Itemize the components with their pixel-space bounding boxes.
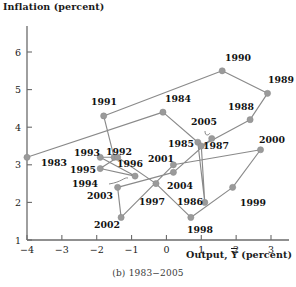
data-point-label-1985: 1985 xyxy=(168,138,194,149)
data-point-label-1993: 1993 xyxy=(74,147,100,158)
x-tick-label-0: 0 xyxy=(163,244,169,255)
data-point-label-1984: 1984 xyxy=(165,93,191,104)
y-tick-label-5: 5 xyxy=(15,84,21,95)
data-point-1999[interactable] xyxy=(230,184,236,190)
data-point-label-1987: 1987 xyxy=(203,140,229,151)
y-tick-label-4: 4 xyxy=(15,122,21,133)
x-tick-label-−1: −1 xyxy=(125,244,139,255)
data-point-label-2005: 2005 xyxy=(191,116,217,127)
data-point-1983[interactable] xyxy=(24,154,30,160)
x-axis-title-variable-letter: Y xyxy=(231,249,238,260)
y-tick-label-3: 3 xyxy=(15,159,21,170)
y-tick-labels: 123456 xyxy=(15,47,21,246)
x-tickmarks xyxy=(27,235,271,240)
data-point-label-1994: 1994 xyxy=(72,178,98,189)
data-point-2003[interactable] xyxy=(115,184,121,190)
data-point-label-2002: 2002 xyxy=(94,219,120,230)
data-point-label-1989: 1989 xyxy=(268,74,294,85)
data-point-label-2003: 2003 xyxy=(87,190,113,201)
leader-1994 xyxy=(109,178,128,184)
data-point-label-2004: 2004 xyxy=(167,180,193,191)
y-tick-label-6: 6 xyxy=(15,47,21,58)
data-point-1995[interactable] xyxy=(97,165,103,171)
data-point-label-1990: 1990 xyxy=(225,52,251,63)
x-tick-label-−3: −3 xyxy=(55,244,69,255)
x-axis-title-suffix: (percent) xyxy=(238,249,292,260)
x-axis-title: Output, Y (percent) xyxy=(186,249,292,260)
data-point-label-1997: 1997 xyxy=(139,196,165,207)
data-point-2000[interactable] xyxy=(257,147,263,153)
x-tick-label-−2: −2 xyxy=(90,244,104,255)
figure-caption: (b) 1983−2005 xyxy=(0,268,296,278)
data-point-label-1988: 1988 xyxy=(228,101,254,112)
data-point-label-2001: 2001 xyxy=(148,153,174,164)
data-point-label-1992: 1992 xyxy=(106,146,132,157)
data-point-label-1996: 1996 xyxy=(117,158,143,169)
data-point-1994[interactable] xyxy=(132,173,138,179)
leader-2005 xyxy=(205,131,210,135)
data-point-label-1998: 1998 xyxy=(187,224,213,235)
y-tick-label-2: 2 xyxy=(15,197,21,208)
scatter-plot: 123456 −4−3−2−10123 19831984198519861987… xyxy=(0,0,296,287)
data-point-1989[interactable] xyxy=(264,90,270,96)
data-point-labels: 1983198419851986198719881989199019911992… xyxy=(41,52,294,235)
data-point-label-1983: 1983 xyxy=(41,157,67,168)
x-axis-title-variable: Y xyxy=(231,249,238,260)
data-point-label-1991: 1991 xyxy=(91,96,117,107)
x-axis-title-prefix: Output, xyxy=(186,249,231,260)
x-tick-label-−4: −4 xyxy=(20,244,34,255)
data-point-1991[interactable] xyxy=(101,113,107,119)
data-point-1990[interactable] xyxy=(219,68,225,74)
data-point-1984[interactable] xyxy=(160,109,166,115)
data-point-label-2000: 2000 xyxy=(259,134,285,145)
data-point-1998[interactable] xyxy=(188,214,194,220)
data-point-2004[interactable] xyxy=(170,169,176,175)
data-point-label-1986: 1986 xyxy=(177,196,203,207)
figure-panel: Inflation (percent) 123456 −4−3−2−10123 … xyxy=(0,0,296,287)
data-point-1988[interactable] xyxy=(247,117,253,123)
data-point-label-1999: 1999 xyxy=(240,197,266,208)
y-tickmarks xyxy=(27,52,32,240)
data-point-1997[interactable] xyxy=(153,181,159,187)
data-point-label-1995: 1995 xyxy=(70,164,96,175)
